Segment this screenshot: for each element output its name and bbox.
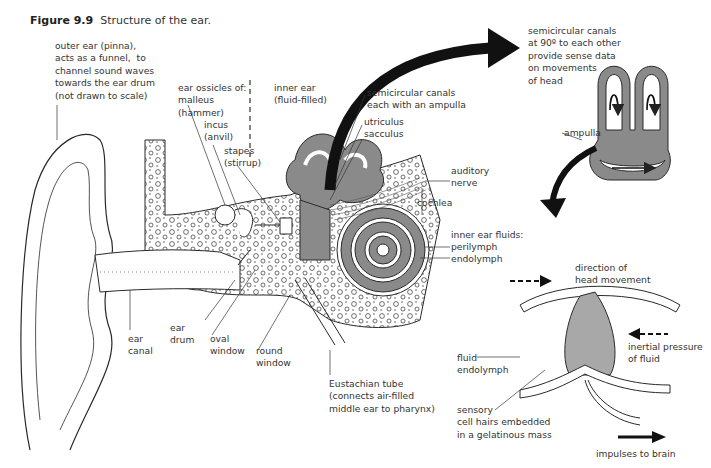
- label-sensory-hairs: sensory cell hairs embedded in a gelatin…: [457, 404, 552, 441]
- label-ear-drum: ear drum: [170, 322, 194, 347]
- label-cochlea: cochlea: [417, 197, 452, 209]
- label-incus: incus (anvil): [204, 119, 233, 144]
- label-auditory-nerve: auditory nerve: [451, 165, 489, 190]
- label-canals-90: semicircular canals at 90º to each other…: [528, 25, 621, 87]
- label-perilymph: perilymph: [451, 241, 497, 253]
- ear-canal: [95, 250, 240, 292]
- label-ampulla: ampulla: [564, 127, 601, 139]
- pinna: [21, 134, 112, 450]
- label-oval-window: oval window: [210, 333, 245, 358]
- label-ossicles: ear ossicles of: malleus (hammer): [178, 82, 246, 119]
- label-utriculus: utriculus: [364, 116, 404, 128]
- label-eustachian-tube: Eustachian tube (connects air-filled mid…: [329, 378, 435, 415]
- label-inner-ear-fluids: inner ear fluids:: [451, 229, 523, 241]
- label-outer-ear: outer ear (pinna), acts as a funnel, to …: [55, 40, 155, 102]
- label-impulses-to-brain: impulses to brain: [596, 448, 676, 460]
- label-sacculus: sacculus: [364, 128, 404, 140]
- label-inertial-pressure: inertial pressure of fluid: [628, 341, 703, 366]
- label-endolymph: endolymph: [451, 253, 503, 265]
- label-ear-canal: ear canal: [128, 333, 153, 358]
- label-fluid-endolymph: fluid endolymph: [457, 352, 509, 377]
- label-semicircular-canals: semicircular canals each with an ampulla: [367, 87, 466, 112]
- label-round-window: round window: [256, 345, 291, 370]
- label-inner-ear: inner ear (fluid-filled): [274, 82, 327, 107]
- label-stapes: stapes (stirrup): [224, 145, 261, 170]
- label-head-movement: direction of head movement: [575, 262, 651, 287]
